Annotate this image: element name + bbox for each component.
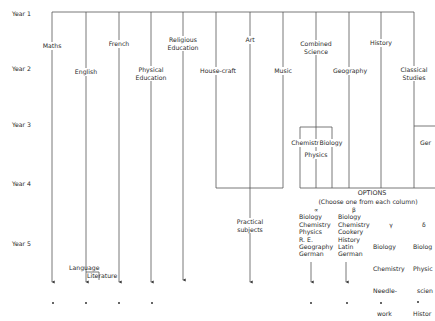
ps-line-2: subjects xyxy=(237,226,263,233)
option-column-delta: δ Biolog Physic scien Histor Physic Geog… xyxy=(413,206,435,321)
pe-line-1: Physical xyxy=(138,66,163,73)
subject-religious-education: Religious Education xyxy=(167,36,200,51)
subject-biology: Biology xyxy=(319,139,344,147)
end-dot xyxy=(85,302,87,304)
end-dot xyxy=(52,302,54,304)
end-dot xyxy=(417,301,419,303)
option-item: Physic xyxy=(413,265,435,272)
options-title: OPTIONS xyxy=(357,190,388,198)
ps-line-1: Practical xyxy=(237,218,263,225)
cs-line-2: Science xyxy=(304,48,328,55)
cls-line-2: Studies xyxy=(403,74,426,81)
year-4-label: Year 4 xyxy=(12,180,31,187)
subject-french: French xyxy=(108,40,131,48)
subject-maths: Maths xyxy=(42,42,63,50)
option-item: Chemistry xyxy=(299,221,333,228)
re-line-1: Religious xyxy=(169,36,197,43)
option-item: Physics xyxy=(299,228,333,235)
subject-german-partial: Ger xyxy=(419,139,432,147)
subject-house-craft: House-craft xyxy=(199,67,237,75)
delta-symbol: δ xyxy=(413,221,435,228)
option-item: Latin xyxy=(338,243,370,250)
subject-physical-education: Physical Education xyxy=(135,66,168,81)
alpha-symbol: ∝ xyxy=(299,206,333,213)
subject-classical-studies: Classical Studies xyxy=(400,66,429,81)
option-item: Histor xyxy=(413,310,435,317)
option-item: Needle- xyxy=(373,287,409,294)
english-language-label: Language xyxy=(68,264,101,272)
pe-line-2: Education xyxy=(136,74,167,81)
subject-english: English xyxy=(74,68,98,76)
option-item: Biology xyxy=(338,213,370,220)
end-dot xyxy=(346,302,348,304)
english-literature-label: Literature xyxy=(86,272,118,280)
year-1-label: Year 1 xyxy=(12,10,31,17)
option-item: Cookery xyxy=(338,228,370,235)
cs-line-1: Combined xyxy=(300,40,331,47)
end-dot xyxy=(118,302,120,304)
end-dot xyxy=(310,302,312,304)
subject-music: Music xyxy=(273,67,293,75)
option-item: German xyxy=(299,250,333,257)
year-3-label: Year 3 xyxy=(12,121,31,128)
re-line-2: Education xyxy=(168,44,199,51)
option-item: Biology xyxy=(299,213,333,220)
practical-subjects-label: Practical subjects xyxy=(236,218,264,233)
option-item: Geography xyxy=(299,243,333,250)
end-dot xyxy=(380,302,382,304)
curriculum-diagram: Year 1 Year 2 Year 3 Year 4 Year 5 Maths… xyxy=(0,0,435,321)
diagram-lines xyxy=(0,0,435,321)
option-column-beta: β Biology Chemistry Cookery History Lati… xyxy=(338,206,370,258)
option-item: History xyxy=(338,236,370,243)
option-item: German xyxy=(338,250,370,257)
options-subtitle: (Choose one from each column) xyxy=(317,198,418,206)
end-dot xyxy=(151,302,153,304)
year-2-label: Year 2 xyxy=(12,65,31,72)
subject-physics: Physics xyxy=(304,151,329,159)
subject-combined-science: Combined Science xyxy=(299,40,332,55)
option-column-gamma: γ Biology Chemistry Needle- work History… xyxy=(373,206,409,321)
option-item: Biolog xyxy=(413,243,435,250)
option-item: Chemistry xyxy=(338,221,370,228)
option-item: Chemistry xyxy=(373,265,409,272)
subject-history: History xyxy=(369,39,393,47)
cls-line-1: Classical xyxy=(401,66,428,73)
subject-art: Art xyxy=(244,36,255,44)
option-item: R. E. xyxy=(299,236,333,243)
beta-symbol: β xyxy=(338,206,370,213)
option-column-alpha: ∝ Biology Chemistry Physics R. E. Geogra… xyxy=(299,206,333,258)
option-item: Biology xyxy=(373,243,409,250)
year-5-label: Year 5 xyxy=(12,240,31,247)
option-item: work xyxy=(373,310,409,317)
subject-geography: Geography xyxy=(332,67,368,75)
gamma-symbol: γ xyxy=(373,221,409,228)
option-item: scien xyxy=(413,287,435,294)
